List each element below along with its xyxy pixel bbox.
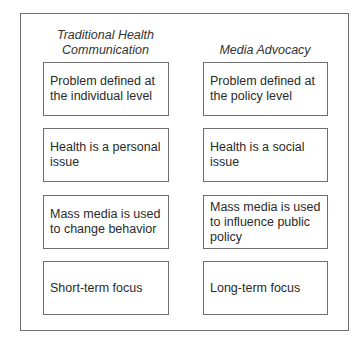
column-title-traditional: Traditional Health Communication xyxy=(43,28,168,58)
media-advocacy-item-3: Mass media is used to influence public p… xyxy=(203,195,328,249)
item-text: Health is a personal issue xyxy=(50,140,162,170)
item-text: Mass media is used to influence public p… xyxy=(210,200,321,245)
title-line: Media Advocacy xyxy=(203,43,327,58)
traditional-item-4: Short-term focus xyxy=(43,261,169,315)
traditional-item-2: Health is a personal issue xyxy=(43,128,169,182)
item-text: Mass media is used to change behavior xyxy=(50,207,162,237)
column-title-media-advocacy: Media Advocacy xyxy=(203,43,327,58)
traditional-item-3: Mass media is used to change behavior xyxy=(43,195,169,249)
media-advocacy-item-1: Problem defined at the policy level xyxy=(203,62,328,116)
item-text: Short-term focus xyxy=(50,281,142,296)
item-text: Problem defined at the policy level xyxy=(210,74,321,104)
item-text: Health is a social issue xyxy=(210,140,321,170)
title-line: Traditional Health xyxy=(43,28,168,43)
item-text: Long-term focus xyxy=(210,281,300,296)
media-advocacy-item-4: Long-term focus xyxy=(203,261,328,315)
title-line: Communication xyxy=(43,43,168,58)
traditional-item-1: Problem defined at the individual level xyxy=(43,62,169,116)
item-text: Problem defined at the individual level xyxy=(50,74,162,104)
media-advocacy-item-2: Health is a social issue xyxy=(203,128,328,182)
